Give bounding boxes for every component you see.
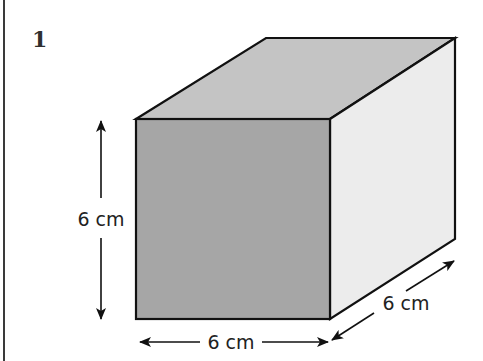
- cube-diagram: 6 cm 6 cm 6 cm: [0, 0, 483, 361]
- depth-label: 6 cm: [382, 292, 429, 314]
- cube-front-face: [136, 119, 330, 319]
- width-label: 6 cm: [207, 331, 254, 353]
- height-label: 6 cm: [77, 208, 124, 230]
